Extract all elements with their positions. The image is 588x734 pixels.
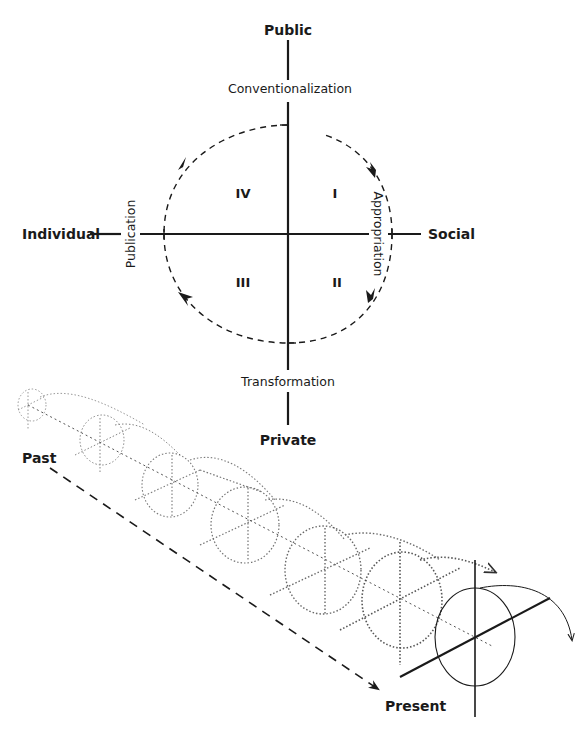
quadrant-label-i: I	[333, 186, 338, 201]
quadrant-diagram: Public Private Individual Social Convent…	[22, 22, 475, 448]
arrow-icon	[178, 157, 186, 174]
process-label-conventionalization: Conventionalization	[228, 81, 352, 96]
quadrant-label-iv: IV	[236, 186, 251, 201]
process-label-publication: Publication	[123, 200, 138, 269]
arrow-icon	[178, 292, 193, 306]
axis-label-public: Public	[264, 22, 312, 38]
quadrant-label-ii: II	[332, 275, 342, 290]
time-arrow	[50, 468, 378, 689]
axis-label-private: Private	[260, 432, 317, 448]
diagram-canvas: Public Private Individual Social Convent…	[0, 0, 588, 734]
axis-label-social: Social	[428, 226, 475, 242]
process-label-appropriation: Appropriation	[371, 191, 386, 276]
axis-label-individual: Individual	[22, 226, 100, 242]
process-label-transformation: Transformation	[240, 374, 335, 389]
cycle-arrows	[178, 157, 376, 306]
past-cycles	[18, 389, 495, 665]
timeline-label-present: Present	[385, 698, 446, 714]
quadrant-label-iii: III	[236, 275, 251, 290]
arrow-icon	[366, 162, 376, 178]
timeline-label-past: Past	[22, 450, 57, 466]
